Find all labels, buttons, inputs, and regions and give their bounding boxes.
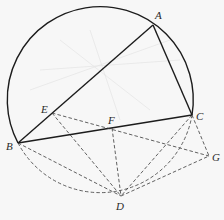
segment-dg [121, 156, 209, 196]
point-label-c: C [196, 110, 204, 122]
segment-ac [153, 25, 192, 115]
segment-cd [121, 115, 192, 196]
segment-bd [18, 143, 121, 196]
circle-upper-arc-solid [7, 7, 193, 143]
segment-eg [52, 113, 209, 156]
segment-fd [112, 128, 121, 196]
point-label-g: G [212, 151, 220, 163]
segment-ab [18, 25, 153, 143]
solid-segments [18, 25, 192, 143]
point-label-f: F [107, 114, 115, 126]
point-labels: ABCDEFG [6, 9, 220, 212]
circle-lower-arc-dashed [18, 115, 192, 193]
point-label-e: E [40, 103, 48, 115]
point-label-d: D [115, 200, 124, 212]
geometry-diagram: ABCDEFG [0, 0, 224, 220]
point-label-b: B [6, 140, 13, 152]
point-label-a: A [154, 9, 162, 21]
segment-bc [18, 115, 192, 143]
background-ghost-lines [30, 30, 180, 120]
